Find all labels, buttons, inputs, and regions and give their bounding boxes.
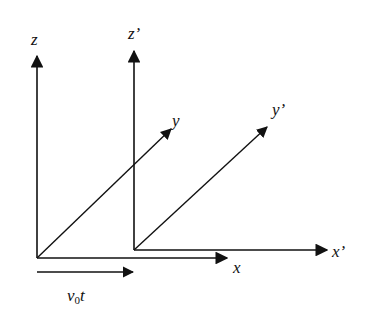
velocity-symbol: v	[67, 286, 75, 305]
y-prime-axis-label: y’	[272, 101, 285, 118]
x-axis-label: x	[233, 259, 241, 276]
y-axis-label: y	[172, 112, 180, 129]
y-axis	[37, 129, 171, 258]
z-axis-label: z	[31, 31, 38, 48]
axes-drawing	[0, 0, 368, 314]
x-prime-axis-label: x’	[332, 243, 345, 260]
displacement-label: v0t	[67, 287, 85, 306]
z-prime-axis-label: z’	[128, 25, 140, 42]
time-symbol: t	[80, 286, 85, 305]
diagram-canvas: z y x z’ y’ x’ v0t	[0, 0, 368, 314]
